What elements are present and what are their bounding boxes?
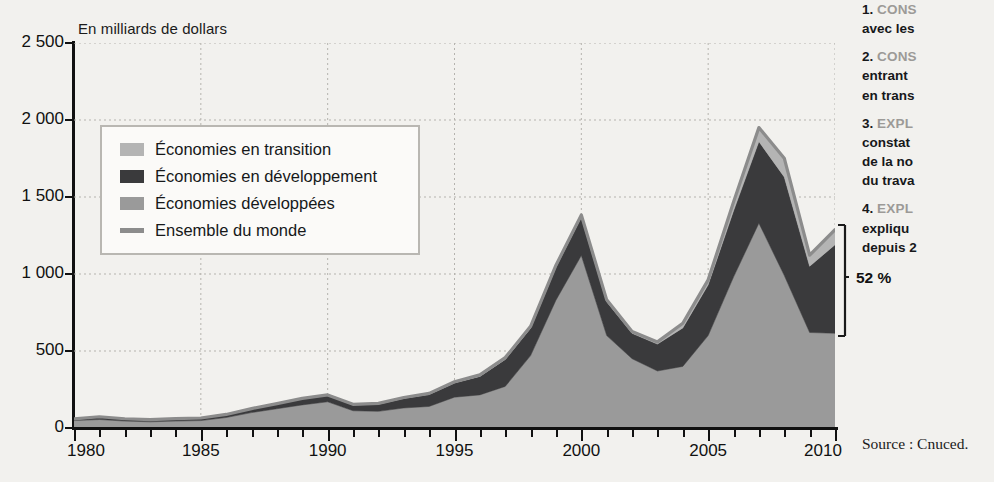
side-note-line: expliqu	[862, 219, 994, 238]
y-axis-tick-label: 1 000	[0, 263, 64, 283]
legend-swatch-icon	[120, 143, 144, 156]
side-note-line: constat	[862, 133, 994, 152]
x-axis-tick-minor	[277, 430, 279, 437]
legend-swatch-icon	[120, 170, 144, 183]
x-axis-tick-minor	[429, 430, 431, 437]
x-axis-tick-minor	[531, 430, 533, 437]
legend-item-developing: Économies en développement	[120, 163, 418, 190]
x-axis-tick-label: 1990	[309, 441, 347, 461]
x-axis-tick-minor	[505, 430, 507, 437]
y-axis-tick-label: 2 000	[0, 109, 64, 129]
side-note-number: 3.	[862, 116, 877, 131]
x-axis-tick-minor	[759, 430, 761, 437]
x-axis-tick-label: 1995	[436, 441, 474, 461]
x-axis-tick-minor	[99, 430, 101, 437]
x-axis-tick-minor	[607, 430, 609, 437]
legend-item-world: Ensemble du monde	[120, 217, 418, 244]
side-note-line: du trava	[862, 171, 994, 190]
x-axis-tick-minor	[353, 430, 355, 437]
side-note-keyword: EXPL	[877, 116, 913, 131]
chart-legend: Économies en transition Économies en dév…	[100, 125, 420, 255]
x-axis-tick-minor	[302, 430, 304, 437]
x-axis-tick-minor	[226, 430, 228, 437]
side-commentary-panel: 1. CONSavec les2. CONSentranten trans3. …	[862, 0, 994, 482]
side-note-2: 2. CONSentranten trans	[862, 47, 994, 104]
x-axis-tick-minor	[556, 430, 558, 437]
chart-container: En milliards de dollars 05001 0001 5002 …	[0, 0, 858, 482]
x-axis-tick-minor	[404, 430, 406, 437]
x-axis-tick-label: 2005	[689, 441, 727, 461]
x-axis-tick-major	[581, 430, 583, 441]
side-note-line: de la no	[862, 152, 994, 171]
y-axis-tick-label: 500	[0, 340, 64, 360]
x-axis-tick-label: 2000	[562, 441, 600, 461]
x-axis-tick-major	[201, 430, 203, 441]
x-axis-tick-label: 1985	[182, 441, 220, 461]
legend-line-icon	[120, 228, 144, 233]
side-note-number: 2.	[862, 49, 877, 64]
x-axis-tick-minor	[125, 430, 127, 437]
x-axis-tick-label: 2010	[804, 441, 842, 461]
percent-bracket-icon	[836, 224, 850, 337]
x-axis-tick-minor	[810, 430, 812, 437]
x-axis-tick-major	[708, 430, 710, 441]
legend-label: Économies développées	[155, 194, 335, 213]
x-axis-tick-minor	[480, 430, 482, 437]
x-axis-tick-minor	[683, 430, 685, 437]
x-axis-tick-minor	[150, 430, 152, 437]
x-axis-tick-minor	[632, 430, 634, 437]
x-axis-tick-major	[455, 430, 457, 441]
side-note-1: 1. CONSavec les	[862, 0, 994, 38]
x-axis-tick-major	[74, 430, 76, 441]
side-note-number: 1.	[862, 2, 877, 17]
x-axis-tick-label: 1980	[67, 441, 105, 461]
source-note: Source : Cnuced.	[862, 435, 968, 453]
y-axis-tick-label: 2 500	[0, 32, 64, 52]
side-note-line: depuis 2	[862, 238, 994, 257]
side-note-number: 4.	[862, 201, 877, 216]
x-axis-tick-major	[328, 430, 330, 441]
x-axis-tick-minor	[734, 430, 736, 437]
y-axis-tick-label: 1 500	[0, 186, 64, 206]
legend-swatch-icon	[120, 197, 144, 210]
side-note-line: entrant	[862, 66, 994, 85]
legend-label: Économies en développement	[155, 167, 377, 186]
legend-item-developed: Économies développées	[120, 190, 418, 217]
legend-label: Ensemble du monde	[155, 221, 306, 240]
side-note-line: avec les	[862, 19, 994, 38]
x-axis-tick-minor	[378, 430, 380, 437]
y-axis-tick-label: 0	[0, 417, 64, 437]
side-note-keyword: CONS	[877, 49, 917, 64]
x-axis-tick-minor	[175, 430, 177, 437]
side-note-keyword: EXPL	[877, 201, 913, 216]
side-note-line: en trans	[862, 86, 994, 105]
legend-label: Économies en transition	[155, 140, 331, 159]
x-axis-tick-minor	[252, 430, 254, 437]
x-axis-tick-minor	[657, 430, 659, 437]
legend-item-transition: Économies en transition	[120, 136, 418, 163]
y-axis-unit-label: En milliards de dollars	[78, 20, 227, 37]
chart-page: En milliards de dollars 05001 0001 5002 …	[0, 0, 994, 482]
side-note-keyword: CONS	[877, 2, 917, 17]
side-note-3: 3. EXPLconstatde la nodu trava	[862, 114, 994, 191]
x-axis-tick-major	[835, 430, 837, 441]
side-note-4: 4. EXPLexpliqudepuis 2	[862, 199, 994, 256]
x-axis-tick-minor	[784, 430, 786, 437]
